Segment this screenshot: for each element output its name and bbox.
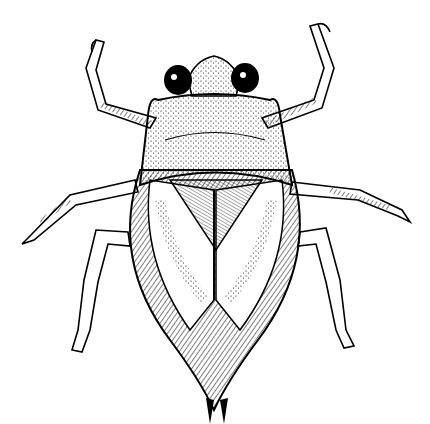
left-eye	[164, 65, 192, 95]
head	[164, 56, 259, 96]
illustration-canvas: water bug illustration	[0, 0, 430, 424]
right-eye	[231, 63, 259, 93]
pronotum	[140, 94, 292, 185]
water-bug-drawing	[0, 0, 430, 424]
